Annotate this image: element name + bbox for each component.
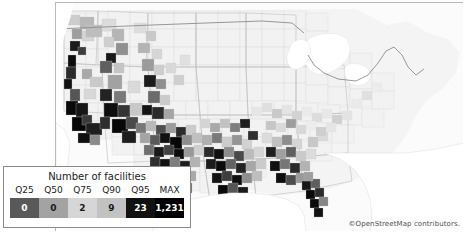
legend-header-q25: Q25 [10,184,39,196]
legend-header-max: MAX [155,184,184,196]
legend-swatch-max: 1,231 [155,198,184,218]
osm-attribution[interactable]: ©OpenStreetMap contributors. [348,220,460,228]
legend-swatch-row: 0 0 2 9 23 1,231 [10,198,184,218]
legend-swatch-q75: 2 [68,198,97,218]
legend-header-q75: Q75 [68,184,97,196]
map-legend: Number of facilities Q25 Q50 Q75 Q90 Q95… [3,166,191,228]
legend-header-q95: Q95 [126,184,155,196]
legend-header-q50: Q50 [39,184,68,196]
map-screenshot: ©OpenStreetMap contributors. Number of f… [0,0,463,233]
legend-title: Number of facilities [10,171,184,183]
legend-swatch-q25: 0 [10,198,39,218]
legend-header-q90: Q90 [97,184,126,196]
legend-swatch-q95: 23 [126,198,155,218]
legend-swatch-q50: 0 [39,198,68,218]
legend-swatch-q90: 9 [97,198,126,218]
legend-header-row: Q25 Q50 Q75 Q90 Q95 MAX [10,184,184,196]
